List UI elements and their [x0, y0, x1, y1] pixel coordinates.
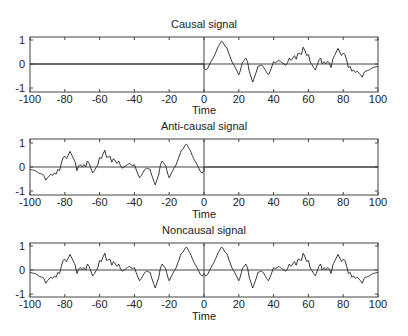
y-tick-label: 1 — [19, 137, 25, 149]
x-tick-label: 20 — [233, 196, 245, 208]
x-tick-label: 80 — [337, 298, 349, 310]
x-tick-label: 100 — [369, 196, 387, 208]
panel-title: Anti-causal signal — [161, 120, 247, 132]
panel-causal: Causal signal Time -100-80-60-40-2002040… — [15, 18, 387, 116]
x-tick-label: 0 — [201, 196, 207, 208]
x-tick-label: -20 — [161, 196, 177, 208]
x-axis-label: Time — [192, 310, 216, 322]
x-tick-label: -60 — [92, 196, 108, 208]
y-tick-label: 1 — [19, 240, 25, 252]
x-tick-label: 40 — [267, 298, 279, 310]
x-tick-label: 100 — [369, 93, 387, 105]
y-tick-label: -1 — [15, 288, 25, 300]
x-tick-label: -40 — [126, 93, 142, 105]
x-tick-label: -20 — [161, 298, 177, 310]
x-tick-label: 40 — [267, 196, 279, 208]
x-tick-label: 20 — [233, 298, 245, 310]
x-tick-label: 0 — [201, 93, 207, 105]
y-tick-label: 0 — [19, 58, 25, 70]
figure: Causal signal Time -100-80-60-40-2002040… — [0, 0, 408, 336]
x-tick-label: 0 — [201, 298, 207, 310]
panel-noncausal: Noncausal signal Time -100-80-60-40-2002… — [15, 224, 387, 322]
x-axis-label: Time — [192, 104, 216, 116]
y-tick-label: -1 — [15, 82, 25, 94]
x-tick-label: -80 — [57, 196, 73, 208]
x-tick-label: -20 — [161, 93, 177, 105]
x-tick-label: 80 — [337, 196, 349, 208]
x-tick-label: -80 — [57, 298, 73, 310]
y-tick-label: 0 — [19, 161, 25, 173]
x-axis-label: Time — [192, 208, 216, 220]
y-tick-label: 1 — [19, 34, 25, 46]
x-tick-label: 20 — [233, 93, 245, 105]
x-tick-label: 60 — [302, 93, 314, 105]
x-tick-label: -100 — [19, 93, 41, 105]
x-tick-label: -60 — [92, 93, 108, 105]
panel-anti-causal: Anti-causal signal Time -100-80-60-40-20… — [15, 120, 387, 220]
x-tick-label: -40 — [126, 298, 142, 310]
x-tick-label: -40 — [126, 196, 142, 208]
x-tick-label: 80 — [337, 93, 349, 105]
panel-title: Noncausal signal — [162, 224, 246, 236]
x-tick-label: -60 — [92, 298, 108, 310]
x-tick-label: 100 — [369, 298, 387, 310]
x-tick-label: 60 — [302, 196, 314, 208]
y-tick-label: -1 — [15, 185, 25, 197]
panel-title: Causal signal — [171, 18, 237, 30]
y-tick-label: 0 — [19, 264, 25, 276]
x-tick-label: -80 — [57, 93, 73, 105]
x-tick-label: 40 — [267, 93, 279, 105]
x-tick-label: 60 — [302, 298, 314, 310]
x-tick-label: -100 — [19, 196, 41, 208]
